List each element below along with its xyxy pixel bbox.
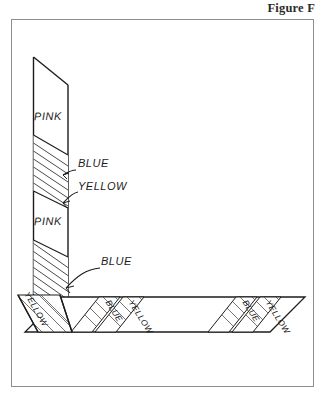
wall-label-yellow-upper: YELLOW xyxy=(78,180,127,192)
wall-label-blue-upper: BLUE xyxy=(78,157,109,169)
technical-drawing xyxy=(0,0,333,406)
wall-label-pink-upper: PINK xyxy=(34,110,62,122)
callout-arrow-blue-lower xyxy=(66,268,100,293)
wall-label-blue-lower: BLUE xyxy=(101,255,132,267)
figure-container: Figure F xyxy=(0,0,333,406)
wall-label-pink-lower: PINK xyxy=(34,215,62,227)
